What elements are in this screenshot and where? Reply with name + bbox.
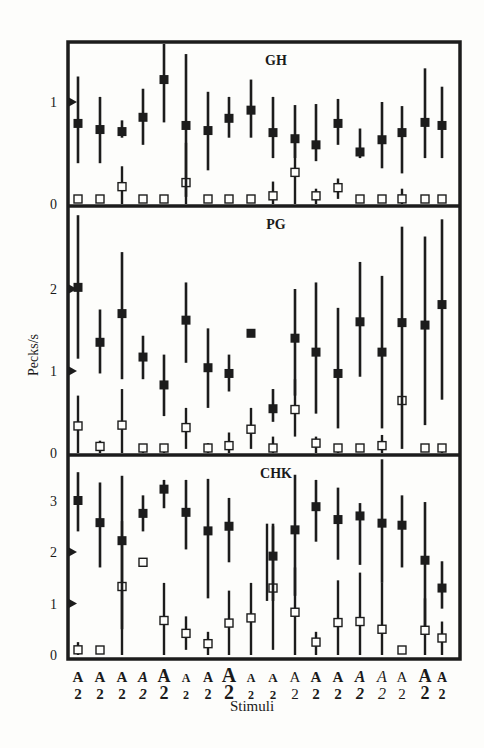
open-square-marker	[96, 195, 104, 203]
panel-title: PG	[266, 217, 286, 232]
filled-square-marker	[96, 125, 105, 134]
y-tick-label: 0	[50, 648, 57, 663]
filled-square-marker	[312, 348, 321, 357]
stimulus-label: A2	[182, 671, 191, 702]
stimulus-label: A2	[333, 669, 344, 702]
stimulus-label: A2	[437, 670, 448, 702]
stimulus-bottom-glyph: 2	[334, 686, 342, 702]
y-tick-label: 1	[50, 364, 57, 379]
filled-square-marker	[225, 369, 234, 378]
stimulus-label: A2	[95, 669, 106, 702]
open-square-marker	[139, 558, 147, 566]
filled-square-marker	[334, 515, 343, 524]
open-square-marker	[160, 616, 168, 624]
stimulus-top-glyph: A	[397, 669, 408, 685]
open-square-marker	[96, 442, 104, 450]
open-square-marker	[398, 646, 406, 654]
panel-title: CHK	[260, 466, 292, 481]
filled-square-marker	[225, 522, 234, 531]
open-square-marker	[334, 619, 342, 627]
y-tick-label: 2	[50, 282, 57, 297]
stimulus-bottom-glyph: 2	[421, 683, 430, 703]
filled-square-marker	[398, 521, 407, 530]
filled-square-marker	[356, 511, 365, 520]
y-tick-label: 1	[50, 95, 57, 110]
filled-square-marker	[225, 114, 234, 123]
y-tick-label: 0	[50, 197, 57, 212]
stimulus-top-glyph: A	[73, 669, 84, 685]
stimulus-label: A2	[158, 666, 171, 703]
stimulus-bottom-glyph: 2	[183, 688, 189, 702]
stimulus-top-glyph: A	[333, 669, 344, 685]
filled-square-marker	[378, 348, 387, 357]
open-square-marker	[378, 625, 386, 633]
stimulus-label: A2	[354, 668, 366, 702]
filled-square-marker	[74, 119, 83, 128]
stimulus-top-glyph: A	[95, 669, 106, 685]
open-square-marker	[118, 421, 126, 429]
stimulus-bottom-glyph: 2	[96, 686, 104, 702]
filled-square-marker	[118, 309, 127, 318]
open-square-marker	[74, 422, 82, 430]
filled-square-marker	[247, 106, 256, 115]
open-square-marker	[421, 444, 429, 452]
open-square-marker	[204, 444, 212, 452]
open-square-marker	[204, 640, 212, 648]
y-tick-label: 1	[50, 597, 57, 612]
stimulus-bottom-glyph: 2	[118, 686, 126, 702]
open-square-marker	[421, 626, 429, 634]
filled-square-marker	[378, 519, 387, 528]
open-square-marker	[139, 444, 147, 452]
stimulus-label: A2	[397, 669, 408, 702]
open-square-marker	[74, 195, 82, 203]
filled-square-marker	[438, 300, 447, 309]
stimulus-label: A2	[311, 669, 322, 702]
stimulus-label: A2	[376, 668, 387, 702]
filled-square-marker	[204, 526, 213, 535]
stimulus-bottom-glyph: 2	[138, 686, 147, 702]
stimulus-top-glyph: A	[203, 670, 214, 685]
filled-square-marker	[421, 556, 430, 565]
open-square-marker	[96, 646, 104, 654]
filled-square-marker	[160, 75, 169, 84]
filled-square-marker	[139, 353, 148, 362]
filled-square-marker	[291, 134, 300, 143]
open-square-marker	[356, 444, 364, 452]
filled-square-marker	[269, 552, 278, 561]
stimulus-top-glyph: A	[376, 668, 387, 685]
pecks-per-second-chart: GH01PG012CHK0123 A2A2A2A2A2A2A2A2A2A2A2A…	[0, 0, 484, 748]
open-square-marker	[356, 618, 364, 626]
filled-square-marker	[118, 536, 127, 545]
stimulus-bottom-glyph: 2	[398, 686, 406, 702]
filled-square-marker	[291, 334, 300, 343]
stimulus-bottom-glyph: 2	[312, 686, 320, 702]
open-square-marker	[182, 629, 190, 637]
y-tick-label: 0	[50, 446, 57, 461]
open-square-marker	[225, 195, 233, 203]
stimulus-label: A2	[419, 666, 432, 703]
stimulus-bottom-glyph: 2	[439, 687, 446, 702]
panels-layer: GH01PG012CHK0123	[50, 44, 447, 663]
stimulus-top-glyph: A	[354, 668, 366, 685]
panel-title: GH	[265, 53, 287, 68]
filled-square-marker	[421, 321, 430, 330]
filled-square-marker	[291, 525, 300, 534]
open-square-marker	[247, 195, 255, 203]
stimulus-top-glyph: A	[311, 669, 322, 685]
open-square-marker	[160, 195, 168, 203]
panel-pg: PG012	[50, 215, 447, 461]
stimulus-label: A2	[290, 669, 301, 702]
filled-square-marker	[356, 317, 365, 326]
stimulus-bottom-glyph: 2	[74, 686, 82, 702]
filled-square-marker	[139, 509, 148, 518]
stimulus-top-glyph: A	[182, 671, 191, 685]
filled-square-marker	[182, 508, 191, 517]
stimulus-bottom-glyph: 2	[205, 687, 212, 702]
filled-square-marker	[269, 404, 278, 413]
stimulus-label: A2	[73, 669, 84, 702]
filled-square-marker	[247, 329, 256, 338]
filled-square-marker	[269, 128, 278, 137]
filled-square-marker	[204, 126, 213, 135]
stimulus-bottom-glyph: 2	[160, 683, 169, 703]
open-square-marker	[438, 634, 446, 642]
